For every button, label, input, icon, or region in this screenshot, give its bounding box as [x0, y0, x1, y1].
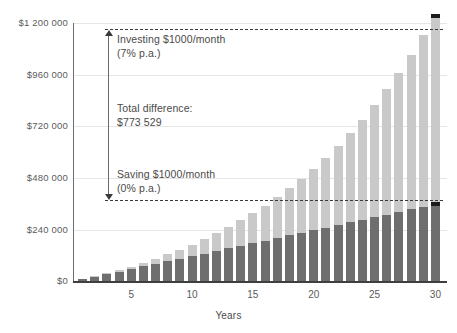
bar-segment-saving	[200, 254, 209, 282]
bar-group	[200, 239, 209, 282]
bar-group	[431, 14, 440, 282]
y-tick-1200000: $1 200 000	[0, 18, 68, 28]
bar-group	[248, 213, 257, 282]
x-tick-label-15: 15	[238, 289, 268, 301]
bar-group	[175, 250, 184, 282]
difference-arrow-head-down	[105, 194, 113, 200]
bar-group	[407, 55, 416, 282]
bar-segment-saving	[370, 217, 379, 282]
bar-segment-saving	[431, 204, 440, 282]
y-tick-label: $0	[57, 276, 68, 286]
y-axis-line	[73, 23, 74, 283]
bar-segment-saving	[346, 222, 355, 282]
bar-segment-saving	[139, 266, 148, 282]
bar-group	[139, 263, 148, 282]
annotation-saving-line1: Saving $1000/month	[117, 168, 215, 180]
bar-group	[127, 267, 136, 282]
annotation-difference-line2: $773 529	[117, 116, 193, 130]
bar-segment-saving	[285, 235, 294, 282]
bar-group	[321, 158, 330, 282]
bar-segment-saving	[273, 238, 282, 282]
gridline-960000	[74, 75, 447, 76]
y-tick-720000: $720 000	[0, 121, 68, 131]
y-tick-240000: $240 000	[0, 225, 68, 235]
bar-group	[273, 197, 282, 282]
bar-group	[212, 233, 221, 282]
bar-group	[309, 169, 318, 282]
dashed-line-investing-total	[105, 29, 443, 30]
bar-group	[236, 220, 245, 282]
y-tick-label: $960 000	[27, 70, 68, 80]
x-tick-label-10: 10	[177, 289, 207, 301]
bar-segment-saving	[394, 212, 403, 282]
bar-group	[224, 227, 233, 282]
bar-segment-saving	[358, 220, 367, 282]
y-tick-960000: $960 000	[0, 70, 68, 80]
bar-group	[261, 206, 270, 282]
x-axis-title: Years	[0, 310, 457, 321]
bar-group	[188, 245, 197, 282]
y-tick-0: $0	[0, 276, 68, 286]
y-tick-label: $240 000	[27, 225, 68, 235]
bar-segment-saving	[407, 209, 416, 282]
gridline-1200000	[74, 23, 447, 24]
bar-group	[346, 133, 355, 282]
x-tick-label-5: 5	[116, 289, 146, 301]
bar-segment-saving	[188, 256, 197, 282]
annotation-saving: Saving $1000/month (0% p.a.)	[117, 168, 215, 195]
bar-group	[370, 105, 379, 282]
bar-marker-saving-total	[431, 202, 440, 206]
bar-group	[334, 146, 343, 282]
savings-vs-investing-bar-chart: $1 200 000 $960 000 $720 000 $480 000 $2…	[0, 0, 457, 333]
x-tick-label-30: 30	[420, 289, 450, 301]
x-tick-label-25: 25	[360, 289, 390, 301]
bar-group	[382, 89, 391, 282]
annotation-investing-line2: (7% p.a.)	[117, 47, 225, 61]
bar-segment-saving	[297, 233, 306, 282]
bar-segment-saving	[163, 261, 172, 282]
annotation-saving-line2: (0% p.a.)	[117, 182, 215, 196]
bar-group	[285, 188, 294, 282]
bar-segment-saving	[334, 225, 343, 282]
bar-segment-saving	[419, 207, 428, 282]
dashed-line-saving-total	[105, 200, 443, 201]
x-axis-line	[73, 281, 447, 283]
bar-segment-saving	[261, 241, 270, 282]
bar-segment-saving	[236, 246, 245, 282]
bar-group	[394, 73, 403, 282]
annotation-investing-line1: Investing $1000/month	[117, 33, 225, 45]
bar-group	[419, 35, 428, 282]
x-tick-label-20: 20	[299, 289, 329, 301]
bar-marker-investing-total	[431, 14, 440, 18]
bar-segment-saving	[248, 243, 257, 282]
difference-arrow-shaft	[108, 34, 109, 198]
annotation-difference-line1: Total difference:	[117, 102, 193, 114]
bar-segment-saving	[382, 215, 391, 282]
bar-group	[151, 259, 160, 282]
difference-arrow-head-up	[105, 30, 113, 36]
bar-segment-saving	[212, 251, 221, 282]
annotation-total-difference: Total difference: $773 529	[117, 102, 193, 129]
y-tick-label: $1 200 000	[18, 18, 68, 28]
y-tick-label: $480 000	[27, 173, 68, 183]
y-tick-label: $720 000	[27, 121, 68, 131]
bar-group	[297, 179, 306, 282]
bar-group	[163, 254, 172, 282]
bar-segment-saving	[224, 248, 233, 282]
bar-segment-saving	[151, 264, 160, 282]
y-tick-480000: $480 000	[0, 173, 68, 183]
annotation-investing: Investing $1000/month (7% p.a.)	[117, 33, 225, 60]
bar-segment-saving	[321, 228, 330, 282]
bar-segment-saving	[175, 259, 184, 282]
bar-segment-saving	[309, 230, 318, 282]
